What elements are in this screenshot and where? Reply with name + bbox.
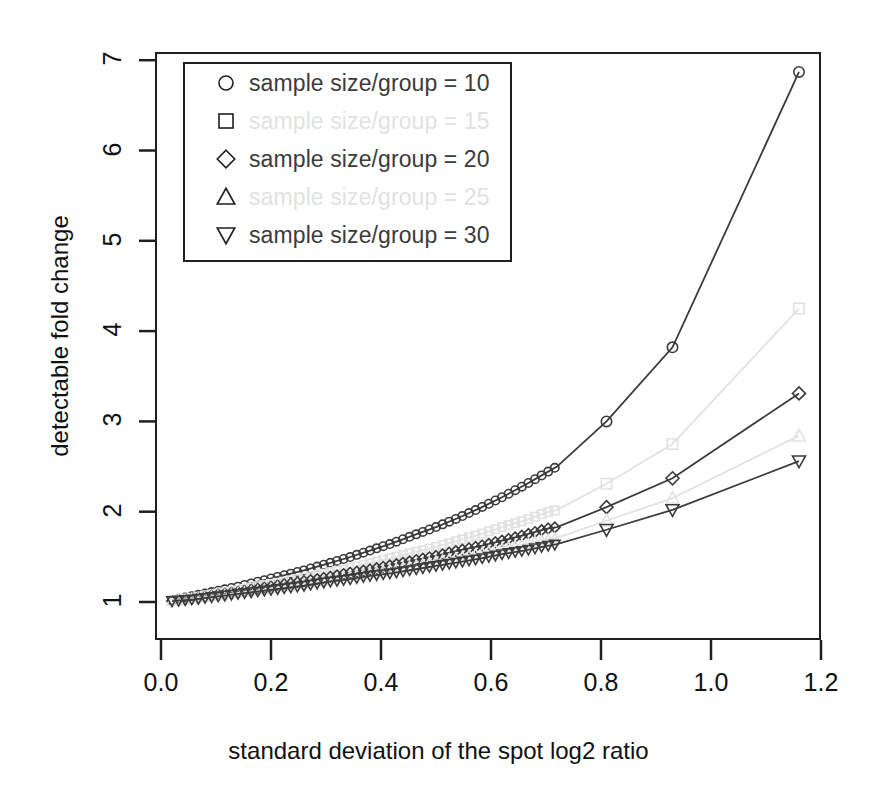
x-tick-label: 1.0 xyxy=(676,668,746,697)
x-tick-label: 1.2 xyxy=(786,668,856,697)
legend-label: sample size/group = 20 xyxy=(249,146,490,173)
legend-label: sample size/group = 15 xyxy=(249,108,490,135)
circle-icon xyxy=(203,70,249,96)
diamond-icon xyxy=(203,146,249,172)
legend-item[interactable]: sample size/group = 10 xyxy=(185,64,510,102)
y-tick-label: 5 xyxy=(98,219,127,259)
legend-label: sample size/group = 25 xyxy=(249,184,490,211)
x-tick-label: 0.2 xyxy=(236,668,306,697)
y-tick-label: 7 xyxy=(98,39,127,79)
y-tick-label: 1 xyxy=(98,581,127,621)
legend-item[interactable]: sample size/group = 20 xyxy=(185,140,510,178)
y-tick-label: 4 xyxy=(98,310,127,350)
legend-item[interactable]: sample size/group = 25 xyxy=(185,178,510,216)
y-tick-label: 2 xyxy=(98,490,127,530)
legend-item[interactable]: sample size/group = 15 xyxy=(185,102,510,140)
y-tick-label: 6 xyxy=(98,129,127,169)
triangle-up-icon xyxy=(203,184,249,210)
x-tick-label: 0.8 xyxy=(566,668,636,697)
legend-label: sample size/group = 10 xyxy=(249,70,490,97)
figure-root: 1234567 0.00.20.40.60.81.01.2 detectable… xyxy=(0,0,877,800)
y-tick-label: 3 xyxy=(98,400,127,440)
legend-label: sample size/group = 30 xyxy=(249,222,490,249)
y-axis-title: detectable fold change xyxy=(46,166,74,506)
square-icon xyxy=(203,108,249,134)
x-tick-label: 0.6 xyxy=(456,668,526,697)
legend: sample size/group = 10sample size/group … xyxy=(183,62,512,262)
x-tick-label: 0.4 xyxy=(346,668,416,697)
triangle-down-icon xyxy=(203,222,249,248)
legend-item[interactable]: sample size/group = 30 xyxy=(185,216,510,254)
data-point xyxy=(793,429,806,441)
x-tick-label: 0.0 xyxy=(126,668,196,697)
x-axis-title: standard deviation of the spot log2 rati… xyxy=(0,737,877,765)
